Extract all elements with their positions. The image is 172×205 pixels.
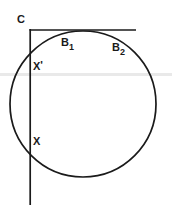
point-label-c-text: C [17,13,25,25]
point-label-b1-subscript: 1 [69,42,74,52]
point-label-b1-base: B [61,36,69,48]
point-label-b2-base: B [112,41,120,53]
point-label-x: X [33,132,40,148]
point-label-x-prime-mark: ' [40,59,43,71]
point-label-c: C [17,10,25,26]
geometry-diagram [0,0,172,205]
figure-container: C B1 B2 X' X [0,0,172,205]
point-label-x-text: X [33,135,40,147]
point-label-b1: B1 [61,33,74,49]
point-label-x-prime: X' [33,57,43,73]
point-label-b2: B2 [112,38,125,54]
point-label-b2-subscript: 2 [120,47,125,57]
